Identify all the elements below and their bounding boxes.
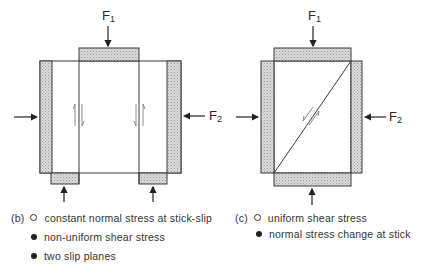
panel-c-caption-item-1: (c)uniform shear stress [235, 213, 367, 224]
panel-b-diagram [14, 26, 205, 202]
sample-block-outline [40, 61, 181, 173]
panel-b-force-label-side: F2 [209, 109, 222, 124]
bottom-right-platen [139, 173, 167, 184]
top-platen [274, 48, 351, 61]
panel-c-diagram [236, 26, 386, 205]
filled-circle-icon [31, 253, 37, 259]
filled-circle-icon [31, 234, 37, 240]
filled-circle-icon [256, 231, 262, 237]
open-circle-icon [254, 214, 261, 221]
panel-b-caption-item-2: non-uniform shear stress [31, 232, 165, 243]
bottom-left-platen [51, 173, 79, 184]
panel-b-tag: (b) [11, 213, 24, 224]
open-circle-icon [30, 214, 37, 221]
panel-c-tag: (c) [235, 213, 248, 224]
right-side-platen [351, 61, 362, 173]
right-side-platen [167, 61, 181, 173]
panel-b-force-label-top: F1 [102, 9, 115, 24]
panel-b-caption-item-1: (b)constant normal stress at stick-slip [11, 213, 212, 224]
panel-c-force-label-side: F2 [389, 110, 402, 125]
panel-c-force-label-top: F1 [308, 9, 321, 24]
panel-b-caption-item-3: two slip planes [31, 251, 116, 262]
bottom-platen [274, 173, 351, 186]
panel-c-caption-item-2: normal stress change at stick [256, 229, 411, 240]
left-side-platen [261, 61, 274, 173]
top-platen [79, 48, 139, 61]
shear-arrows-diagonal [303, 107, 319, 125]
left-side-platen [40, 61, 52, 173]
diagonal-slip-plane [274, 61, 351, 173]
